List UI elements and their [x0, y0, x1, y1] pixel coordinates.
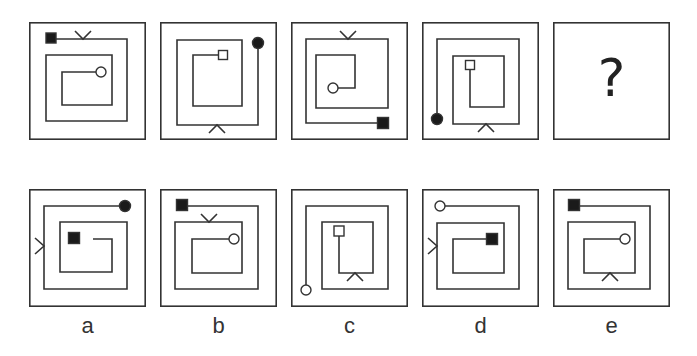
- spiral-figure: [29, 22, 146, 140]
- option-label-a[interactable]: a: [29, 313, 146, 339]
- question-mark: ?: [553, 22, 670, 140]
- answer-option-d[interactable]: [422, 189, 539, 307]
- answer-option-e[interactable]: [553, 189, 670, 307]
- start-hollow-circle-icon: [435, 201, 445, 211]
- end-filled-square-icon: [487, 234, 498, 245]
- spiral-figure: [291, 189, 408, 307]
- start-filled-square-icon: [569, 200, 580, 211]
- start-filled-square-icon: [46, 33, 56, 43]
- spiral-figure: [160, 189, 277, 307]
- sequence-panel-p5: ?: [553, 22, 670, 140]
- sequence-panel-p3: [291, 22, 408, 140]
- spiral-figure: [291, 22, 408, 140]
- option-label-c[interactable]: c: [291, 313, 408, 339]
- answer-option-a[interactable]: [29, 189, 146, 307]
- spiral-figure: [422, 189, 539, 307]
- sequence-panel-p1: [29, 22, 146, 140]
- spiral-figure: [422, 22, 539, 140]
- spiral-figure: [553, 189, 670, 307]
- end-hollow-square-icon: [219, 51, 228, 60]
- start-filled-circle-icon: [432, 114, 443, 125]
- end-hollow-square-icon: [466, 61, 475, 70]
- start-filled-square-icon: [177, 200, 188, 211]
- start-filled-square-icon: [378, 118, 389, 129]
- option-label-d[interactable]: d: [422, 313, 539, 339]
- end-filled-square-icon: [69, 233, 80, 244]
- end-hollow-circle-icon: [328, 83, 338, 93]
- answer-option-c[interactable]: [291, 189, 408, 307]
- sequence-panel-p2: [160, 22, 277, 140]
- end-hollow-circle-icon: [96, 67, 106, 77]
- spiral-figure: [29, 189, 146, 307]
- option-label-b[interactable]: b: [160, 313, 277, 339]
- spiral-figure: [160, 22, 277, 140]
- end-hollow-circle-icon: [620, 234, 630, 244]
- option-label-e[interactable]: e: [553, 313, 670, 339]
- sequence-panel-p4: [422, 22, 539, 140]
- end-hollow-square-icon: [334, 226, 344, 236]
- start-filled-circle-icon: [120, 201, 131, 212]
- start-filled-circle-icon: [253, 38, 264, 49]
- start-hollow-circle-icon: [301, 285, 311, 295]
- answer-option-b[interactable]: [160, 189, 277, 307]
- panel-frame: [292, 23, 407, 139]
- end-hollow-circle-icon: [229, 234, 239, 244]
